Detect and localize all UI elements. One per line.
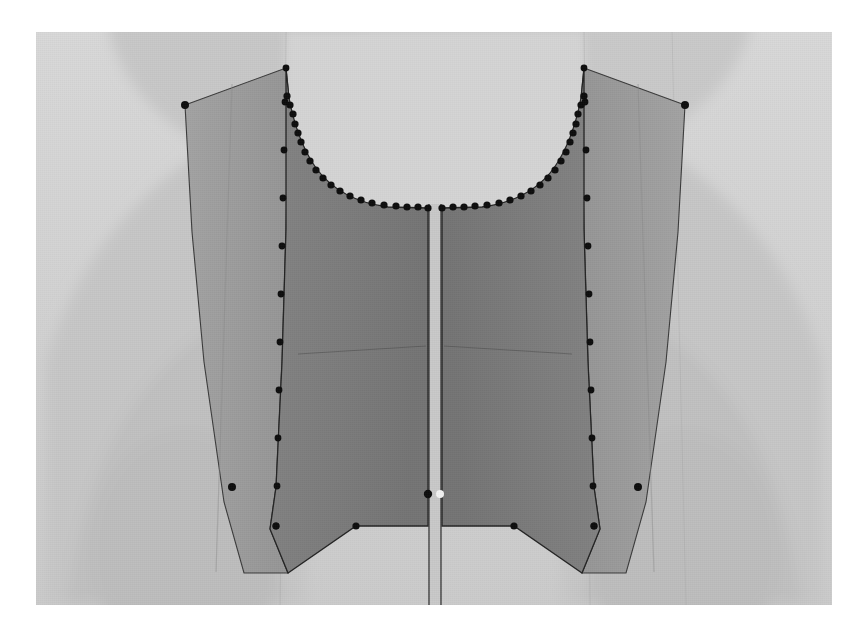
right-fold-edge-point[interactable] <box>583 147 590 154</box>
left-neckline-point[interactable] <box>327 181 334 188</box>
right-neckline-point[interactable] <box>562 148 569 155</box>
left-neckline-point[interactable] <box>283 92 290 99</box>
right-neckline-point[interactable] <box>460 203 467 210</box>
right-fold-edge-point[interactable] <box>588 387 595 394</box>
left-fold-edge-point[interactable] <box>275 435 282 442</box>
left-fold-edge-point[interactable] <box>279 243 286 250</box>
left-neckline-point[interactable] <box>319 174 326 181</box>
right-hem-point[interactable] <box>590 522 597 529</box>
left-fold-edge-point[interactable] <box>277 339 284 346</box>
left-neckline-point[interactable] <box>297 138 304 145</box>
right-fold-edge-point[interactable] <box>582 99 589 106</box>
left-fold-edge-point[interactable] <box>274 483 281 490</box>
left-outer-edge-point[interactable] <box>228 483 236 491</box>
right-outer-edge-point[interactable] <box>634 483 642 491</box>
right-neckline-point[interactable] <box>527 187 534 194</box>
right-neckline-point[interactable] <box>483 201 490 208</box>
right-neckline-point[interactable] <box>574 110 581 117</box>
right-neckline-point[interactable] <box>517 192 524 199</box>
right-hem-point[interactable] <box>510 522 517 529</box>
left-neckline-point[interactable] <box>392 202 399 209</box>
left-outer-edge-point[interactable] <box>181 101 189 109</box>
right-fold-edge-point[interactable] <box>586 291 593 298</box>
left-neckline-point[interactable] <box>312 166 319 173</box>
left-neckline-point[interactable] <box>289 110 296 117</box>
right-neckline-point[interactable] <box>551 166 558 173</box>
3d-viewport[interactable] <box>36 32 832 605</box>
right-fold-edge-point[interactable] <box>590 483 597 490</box>
right-neckline-point[interactable] <box>572 120 579 127</box>
left-neckline-point[interactable] <box>380 201 387 208</box>
left-fold-edge-point[interactable] <box>281 147 288 154</box>
right-neckline-point[interactable] <box>471 202 478 209</box>
right-outer-edge-point[interactable] <box>681 101 689 109</box>
active-vertex[interactable] <box>424 490 432 498</box>
right-neckline-point[interactable] <box>580 92 587 99</box>
right-neckline-point[interactable] <box>566 138 573 145</box>
left-fold-edge-point[interactable] <box>283 65 290 72</box>
right-fold-edge-point[interactable] <box>589 435 596 442</box>
left-neckline-point[interactable] <box>357 196 364 203</box>
right-fold-edge-point[interactable] <box>584 195 591 202</box>
right-neckline-point[interactable] <box>449 203 456 210</box>
left-neckline-point[interactable] <box>368 199 375 206</box>
left-fold-edge-point[interactable] <box>278 291 285 298</box>
right-neckline-point[interactable] <box>557 157 564 164</box>
left-neckline-point[interactable] <box>291 120 298 127</box>
left-neckline-point[interactable] <box>306 157 313 164</box>
left-neckline-point[interactable] <box>336 187 343 194</box>
left-neckline-point[interactable] <box>403 203 410 210</box>
left-neckline-point[interactable] <box>294 129 301 136</box>
right-neckline-point[interactable] <box>506 196 513 203</box>
left-fold-edge-point[interactable] <box>282 99 289 106</box>
right-neckline-point[interactable] <box>569 129 576 136</box>
left-fold-edge-point[interactable] <box>280 195 287 202</box>
right-neckline-point[interactable] <box>536 181 543 188</box>
left-neckline-point[interactable] <box>414 203 421 210</box>
left-hem-point[interactable] <box>352 522 359 529</box>
left-hem-point[interactable] <box>272 522 279 529</box>
right-neckline-point[interactable] <box>438 204 445 211</box>
left-neckline-point[interactable] <box>301 148 308 155</box>
right-neckline-point[interactable] <box>495 199 502 206</box>
center-front-opening[interactable] <box>429 204 441 605</box>
left-neckline-point[interactable] <box>346 192 353 199</box>
right-fold-edge-point[interactable] <box>581 65 588 72</box>
viewport-canvas[interactable] <box>36 32 832 605</box>
screenshot-root <box>0 0 865 639</box>
left-fold-edge-point[interactable] <box>276 387 283 394</box>
selected-vertex[interactable] <box>436 490 444 498</box>
right-fold-edge-point[interactable] <box>587 339 594 346</box>
right-fold-edge-point[interactable] <box>585 243 592 250</box>
right-neckline-point[interactable] <box>544 174 551 181</box>
left-neckline-point[interactable] <box>424 204 431 211</box>
